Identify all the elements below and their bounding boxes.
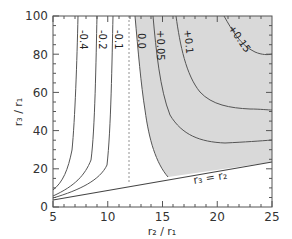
y-tick-label: 100 [25,9,48,23]
y-axis-label: r₃ / r₁ [12,98,25,127]
y-tick-label: 80 [33,48,48,62]
contour-label-0-0: 0.0 [136,33,147,49]
contour-label-neg-0-2: -0.2 [97,30,108,50]
contour-chart: 5 10 15 20 25 0 20 40 60 80 100 r₂ / r₁ … [0,0,292,239]
x-tick-label: 10 [100,210,115,224]
contour-label-neg-0-4: -0.4 [78,30,89,50]
y-tick-label: 20 [33,162,48,176]
y-tick-label: 0 [40,200,48,214]
y-tick-label: 40 [33,124,48,138]
x-tick-label: 5 [49,210,57,224]
x-tick-label: 25 [264,210,279,224]
x-tick-label: 15 [155,210,170,224]
x-tick-label: 20 [210,210,225,224]
contour-label-neg-0-1: -0.1 [113,30,124,50]
contour-label-pos-0-05: +0.05 [155,30,166,61]
y-tick-label: 60 [33,86,48,100]
x-axis-label: r₂ / r₁ [148,225,177,238]
